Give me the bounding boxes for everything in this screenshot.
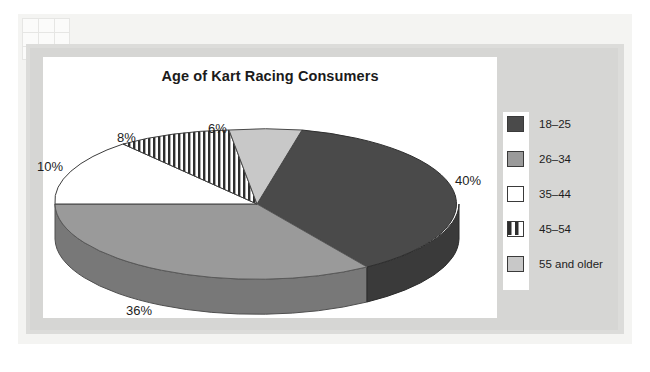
legend-swatch-row-55-and-older[interactable] (503, 254, 529, 274)
legend-label-26-34: 26–34 (539, 153, 571, 165)
legend-swatch-row-45-54[interactable] (503, 219, 529, 239)
pie-label-26-34: 36% (126, 303, 152, 318)
legend-swatch-row-35-44[interactable] (503, 184, 529, 204)
legend-swatch-26-34 (507, 151, 524, 167)
pie-label-18-25: 40% (455, 173, 481, 188)
pie-svg (43, 57, 497, 318)
legend-swatch-55-and-older (507, 256, 524, 272)
legend-swatch-row-26-34[interactable] (503, 149, 529, 169)
legend-swatch-row-18-25[interactable] (503, 114, 529, 134)
legend-label-35-44: 35–44 (539, 188, 571, 200)
pie-chart (43, 57, 497, 318)
pie-label-45-54: 8% (117, 130, 136, 145)
legend-label-55-and-older: 55 and older (539, 258, 603, 270)
chart-page: Age of Kart Racing Consumers (0, 0, 650, 372)
legend-swatch-18-25 (507, 116, 524, 132)
pie-label-55-and-older: 6% (208, 121, 227, 136)
legend (503, 112, 529, 290)
legend-swatch-35-44 (507, 186, 524, 202)
legend-label-18-25: 18–25 (539, 118, 571, 130)
legend-label-45-54: 45–54 (539, 223, 571, 235)
pie-label-35-44: 10% (37, 159, 63, 174)
legend-swatch-45-54 (507, 221, 524, 237)
